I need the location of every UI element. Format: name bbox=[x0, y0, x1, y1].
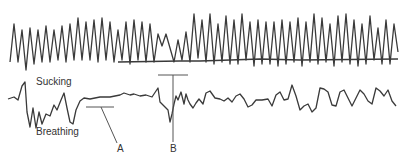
marker-a-label: A bbox=[117, 143, 124, 154]
breathing-label: Breathing bbox=[36, 126, 79, 137]
sucking-breathing-diagram: Sucking Breathing A B bbox=[0, 0, 406, 162]
marker-b-label: B bbox=[170, 143, 177, 154]
sucking-label: Sucking bbox=[36, 76, 72, 87]
breathing-trace bbox=[8, 82, 396, 128]
marker-a-leader bbox=[101, 107, 117, 143]
sucking-baseline bbox=[118, 59, 398, 62]
sucking-trace bbox=[10, 14, 398, 70]
